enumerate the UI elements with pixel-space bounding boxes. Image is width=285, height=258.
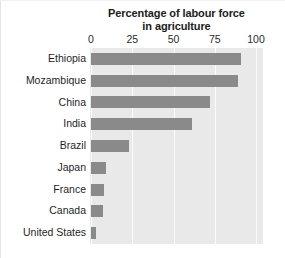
bar-chart-figure: Percentage of labour force in agricultur… [0, 0, 285, 258]
bar-canada[interactable] [91, 205, 103, 217]
x-tick-label-0: 0 [88, 33, 94, 46]
bar-row[interactable] [90, 200, 263, 222]
chart-title-line-2: in agriculture [90, 20, 263, 33]
y-axis-category-labels: EthiopiaMozambiqueChinaIndiaBrazilJapanF… [1, 48, 86, 244]
x-tick-label-25: 25 [126, 33, 138, 46]
bars-layer [90, 48, 263, 244]
category-label-brazil: Brazil [60, 135, 86, 157]
chart-title-line-1: Percentage of labour force [90, 7, 263, 20]
chart-title: Percentage of labour force in agricultur… [90, 7, 263, 32]
category-label-canada: Canada [49, 200, 86, 222]
bar-row[interactable] [90, 222, 263, 244]
category-label-united-states: United States [23, 222, 86, 244]
bar-row[interactable] [90, 113, 263, 135]
x-tick-label-100: 100 [247, 33, 265, 46]
category-label-china: China [59, 92, 86, 114]
bar-row[interactable] [90, 135, 263, 157]
bar-ethiopia[interactable] [91, 53, 241, 65]
bar-row[interactable] [90, 179, 263, 201]
bar-france[interactable] [91, 184, 104, 196]
bar-united-states[interactable] [91, 227, 96, 239]
category-label-france: France [53, 179, 86, 201]
bar-india[interactable] [91, 118, 192, 130]
plot-area [90, 48, 263, 244]
bar-japan[interactable] [91, 162, 106, 174]
x-axis-tick-labels: 0255075100 [90, 33, 263, 46]
x-tick-label-50: 50 [168, 33, 180, 46]
bar-row[interactable] [90, 92, 263, 114]
bar-brazil[interactable] [91, 140, 129, 152]
category-label-india: India [63, 113, 86, 135]
category-label-mozambique: Mozambique [26, 70, 86, 92]
bar-row[interactable] [90, 157, 263, 179]
bar-mozambique[interactable] [91, 75, 238, 87]
category-label-ethiopia: Ethiopia [48, 48, 86, 70]
category-label-japan: Japan [57, 157, 86, 179]
bar-china[interactable] [91, 96, 210, 108]
bar-row[interactable] [90, 48, 263, 70]
bar-row[interactable] [90, 70, 263, 92]
x-tick-label-75: 75 [209, 33, 221, 46]
